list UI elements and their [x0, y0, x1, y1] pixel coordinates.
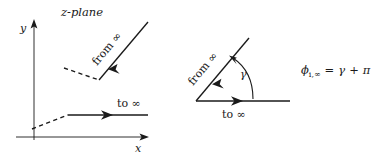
- x-axis-label: x: [135, 142, 142, 155]
- upper-contour-label: from ∞: [89, 30, 124, 68]
- horizontal-axis: [16, 134, 149, 141]
- angle-incoming-label: from ∞: [185, 50, 220, 88]
- phi-symbol: ϕ: [301, 63, 309, 77]
- outgoing-ray: [196, 96, 290, 106]
- equation-gamma: γ: [338, 63, 345, 77]
- figure-canvas: z-plane y x to ∞ from ∞ γ: [0, 0, 388, 156]
- phase-relation: ϕi,∞=γ+π: [301, 63, 371, 79]
- vertical-axis: [31, 19, 38, 140]
- panel-title-z-plane: z-plane: [60, 5, 103, 19]
- equation-operator: +: [349, 63, 359, 77]
- figure-root: z-plane y x to ∞ from ∞ γ: [0, 0, 388, 156]
- angle-diagram: γ to ∞ from ∞: [185, 38, 290, 121]
- equation-relation: =: [325, 63, 335, 77]
- phi-subscript: i,∞: [309, 70, 321, 79]
- gamma-label: γ: [240, 68, 247, 81]
- phase-equation: ϕi,∞=γ+π: [301, 63, 371, 79]
- lower-contour: [32, 110, 148, 129]
- lower-contour-label: to ∞: [117, 97, 141, 110]
- left-panel-group: z-plane y x to ∞ from ∞: [16, 5, 149, 155]
- equation-pi: π: [362, 63, 371, 77]
- y-axis-label: y: [19, 22, 27, 35]
- angle-outgoing-label: to ∞: [222, 108, 246, 121]
